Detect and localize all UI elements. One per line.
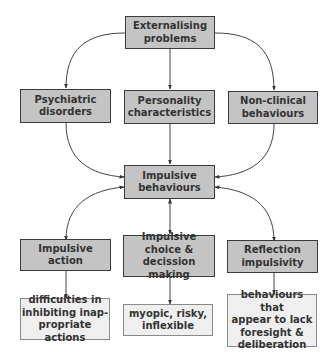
node-non-clinical-behaviours: Non-clinical behaviours [228,91,318,124]
edge-externalising-psychiatric [66,33,125,88]
node-impulsive-action: Impulsive action [20,239,111,271]
edge-nonclinical-impulsive [215,124,274,177]
edge-impulsive-reflection [215,187,274,241]
node-desc-impulsive-action: difficulties in inhibiting inap- propria… [20,298,110,340]
node-impulsive-choice: Impulsive choice & decission making [123,235,215,277]
node-desc-impulsive-choice: myopic, risky, inflexible [123,304,213,336]
node-psychiatric-disorders: Psychiatric disorders [20,89,111,123]
edge-externalising-nonclinical [215,33,274,90]
node-impulsive-behaviours: Impulsive behaviours [124,165,215,199]
edge-impulsive-action [66,187,124,240]
edge-psychiatric-impulsive [66,123,124,177]
node-personality-characteristics: Personality characteristics [124,90,215,124]
node-reflection-impulsivity: Reflection impulsivity [227,240,318,273]
node-externalising-problems: Externalising problems [125,16,215,49]
node-desc-reflection-impulsivity: behaviours that appear to lack foresight… [227,294,317,347]
